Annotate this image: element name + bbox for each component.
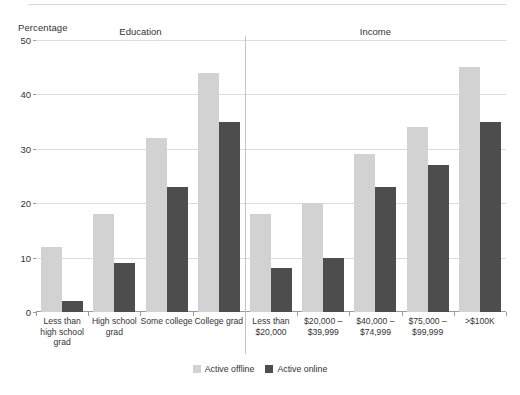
legend-label: Active offline xyxy=(205,364,255,374)
section-divider xyxy=(245,36,246,354)
bar xyxy=(167,187,188,312)
bar xyxy=(459,67,480,312)
y-axis-tick-label: 40 xyxy=(20,89,31,100)
chart-legend: Active offlineActive online xyxy=(0,364,520,374)
gridline xyxy=(36,94,506,95)
x-axis-category-label: $75,000 – $99,999 xyxy=(398,316,458,337)
legend-item-online[interactable]: Active online xyxy=(265,364,327,374)
bar xyxy=(271,268,292,312)
y-axis-tick-label: 30 xyxy=(20,143,31,154)
bar xyxy=(407,127,428,312)
bar xyxy=(250,214,271,312)
bar xyxy=(219,122,240,312)
bar xyxy=(41,247,62,312)
bar xyxy=(198,73,219,312)
y-axis-tick-mark xyxy=(33,94,36,95)
legend-swatch-offline-icon xyxy=(193,365,201,373)
y-axis-tick-label: 20 xyxy=(20,198,31,209)
plot-area: 01020304050Less than high school gradHig… xyxy=(36,40,506,312)
x-axis-category-label: Less than high school grad xyxy=(32,316,92,348)
legend-swatch-online-icon xyxy=(265,365,273,373)
bar-chart: Percentage 01020304050Less than high sch… xyxy=(0,0,520,395)
y-axis-tick-label: 10 xyxy=(20,252,31,263)
section-label-income: Income xyxy=(360,26,391,37)
y-axis-tick-mark xyxy=(33,149,36,150)
y-axis-tick-mark xyxy=(33,258,36,259)
bar xyxy=(146,138,167,312)
top-divider-rule xyxy=(28,4,506,5)
legend-item-offline[interactable]: Active offline xyxy=(193,364,255,374)
y-axis-tick-mark xyxy=(33,203,36,204)
x-axis-category-label: $20,000 – $39,999 xyxy=(293,316,353,337)
bar xyxy=(480,122,501,312)
x-axis-category-label: High school grad xyxy=(84,316,144,337)
bar xyxy=(354,154,375,312)
bar xyxy=(323,258,344,312)
legend-label: Active online xyxy=(277,364,327,374)
bar xyxy=(62,301,83,312)
bar xyxy=(114,263,135,312)
y-axis-tick-label: 0 xyxy=(26,307,31,318)
section-label-education: Education xyxy=(119,26,161,37)
x-axis-category-label: College grad xyxy=(189,316,249,327)
y-axis-tick-mark xyxy=(33,40,36,41)
gridline xyxy=(36,40,506,41)
bar xyxy=(93,214,114,312)
bar xyxy=(428,165,449,312)
x-axis-category-label: Some college xyxy=(136,316,196,327)
x-axis-category-label: Less than $20,000 xyxy=(241,316,301,337)
y-axis-tick-label: 50 xyxy=(20,35,31,46)
y-axis-title: Percentage xyxy=(18,22,68,33)
bar xyxy=(302,203,323,312)
x-axis-category-label: $40,000 – $74,999 xyxy=(345,316,405,337)
gridline xyxy=(36,149,506,150)
x-axis-category-label: >$100K xyxy=(450,316,510,327)
bar xyxy=(375,187,396,312)
